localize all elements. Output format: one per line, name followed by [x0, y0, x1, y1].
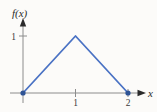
y-axis-arrowhead-icon	[20, 18, 26, 27]
function-plot-figure: 121 f(x) x	[0, 0, 157, 112]
function-curve	[23, 36, 128, 93]
data-point-marker	[125, 90, 130, 95]
x-axis-label: x	[147, 87, 153, 99]
plot-canvas: 121 f(x) x	[0, 0, 157, 112]
data-point-marker	[20, 90, 25, 95]
axis-ticks: 121	[11, 32, 130, 109]
x-tick-label: 1	[73, 98, 78, 108]
y-tick-label: 1	[11, 32, 16, 42]
y-axis-label: f(x)	[12, 7, 28, 20]
x-tick-label: 2	[126, 98, 131, 108]
x-axis-arrowhead-icon	[138, 90, 147, 96]
